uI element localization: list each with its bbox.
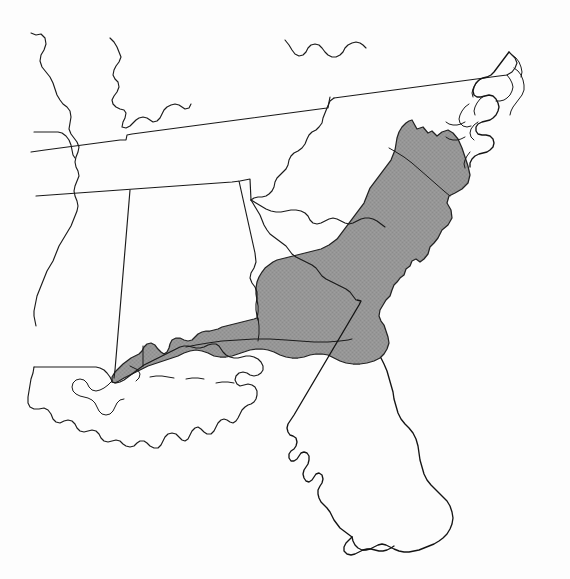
- scan-artifact-strip: [0, 0, 570, 3]
- map-canvas: [0, 0, 570, 579]
- range-map-figure: [0, 0, 570, 579]
